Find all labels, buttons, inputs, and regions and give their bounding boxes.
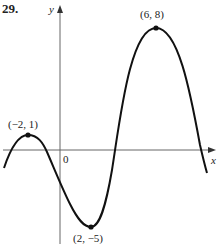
point-marker-local-max-right <box>153 25 158 30</box>
function-graph: 29. y x 0 (−2, 1) (2, −5) (6, 8) <box>0 0 219 244</box>
point-label-local-max-left: (−2, 1) <box>8 119 38 130</box>
point-label-local-min: (2, −5) <box>73 233 103 244</box>
x-axis-label: x <box>211 155 216 166</box>
origin-label: 0 <box>63 154 69 165</box>
point-marker-local-min <box>88 224 93 229</box>
y-axis-arrow-icon <box>57 5 63 13</box>
y-axis-label: y <box>49 4 54 15</box>
point-label-local-max-right: (6, 8) <box>140 9 164 20</box>
point-marker-local-max-left <box>25 132 30 137</box>
x-axis-arrow-icon <box>208 147 216 153</box>
problem-number: 29. <box>2 2 18 15</box>
